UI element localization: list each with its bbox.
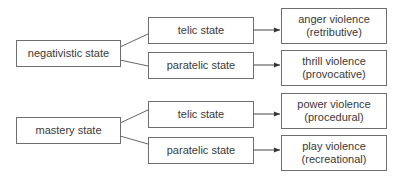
play-violence-box: play violence (recreational) xyxy=(281,135,387,171)
paratelic-state-label-1: paratelic state xyxy=(167,59,235,72)
connector-mastery-telic xyxy=(120,110,148,123)
telic-state-label-2: telic state xyxy=(178,108,224,121)
anger-violence-sublabel: (retributive) xyxy=(306,26,362,39)
paratelic-state-label-2: paratelic state xyxy=(167,144,235,157)
mastery-state-label: mastery state xyxy=(35,124,101,137)
power-violence-box: power violence (procedural) xyxy=(281,93,387,129)
connector-negativistic-paratelic xyxy=(120,60,148,66)
telic-state-box-1: telic state xyxy=(148,17,254,44)
telic-state-label-1: telic state xyxy=(178,24,224,37)
thrill-violence-box: thrill violence (provocative) xyxy=(281,50,387,86)
power-violence-label: power violence xyxy=(297,98,370,111)
thrill-violence-sublabel: (provocative) xyxy=(302,68,366,81)
anger-violence-label: anger violence xyxy=(298,13,370,26)
play-violence-label: play violence xyxy=(302,140,366,153)
negativistic-state-box: negativistic state xyxy=(16,40,121,67)
play-violence-sublabel: (recreational) xyxy=(302,153,367,166)
connector-mastery-paratelic xyxy=(120,136,148,144)
anger-violence-box: anger violence (retributive) xyxy=(281,8,387,44)
power-violence-sublabel: (procedural) xyxy=(304,111,363,124)
telic-state-box-2: telic state xyxy=(148,101,254,128)
paratelic-state-box-1: paratelic state xyxy=(148,52,254,79)
mastery-state-box: mastery state xyxy=(16,117,121,144)
thrill-violence-label: thrill violence xyxy=(302,55,366,68)
negativistic-state-label: negativistic state xyxy=(28,47,109,60)
connector-negativistic-telic xyxy=(120,34,148,47)
paratelic-state-box-2: paratelic state xyxy=(148,137,254,164)
